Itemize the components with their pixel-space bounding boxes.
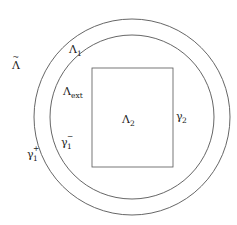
domain-diagram: Λ ~ Λ 1 Λ ext Λ 2 γ 2 γ 1 − γ 1 +	[0, 0, 237, 225]
gamma-1-plus-sup: +	[33, 144, 39, 153]
label-lambda-2: Λ 2	[121, 113, 135, 128]
gamma-1-plus-sub: 1	[33, 154, 38, 163]
lambda-1-sub: 1	[77, 49, 82, 58]
inner-circle-gamma1-minus	[50, 35, 214, 199]
lambda-tilde-accent: ~	[13, 53, 20, 62]
lambda-ext-sub: ext	[71, 91, 83, 100]
gamma-1-minus-sup: −	[67, 132, 73, 141]
label-gamma-1-plus: γ 1 +	[27, 144, 39, 163]
lambda-2-sub: 2	[130, 119, 135, 128]
outer-circle-gamma1-plus	[34, 19, 230, 215]
label-lambda-1: Λ 1	[68, 43, 82, 58]
gamma-1-minus-sub: 1	[67, 142, 72, 151]
label-gamma-1-minus: γ 1 −	[61, 132, 73, 151]
label-lambda-ext: Λ ext	[62, 85, 83, 100]
label-gamma-2: γ 2	[176, 110, 187, 125]
inner-rectangle-lambda2	[92, 68, 173, 167]
gamma-2-sub: 2	[182, 116, 187, 125]
label-lambda-tilde: Λ ~	[11, 53, 21, 72]
